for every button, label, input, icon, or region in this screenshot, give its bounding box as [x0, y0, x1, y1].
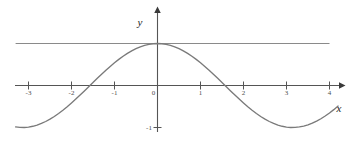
- x-tick-label-4: 4: [328, 89, 332, 97]
- y-axis-label: y: [137, 16, 143, 28]
- x-tick-label-0: 0: [152, 89, 156, 97]
- x-tick-label-3: 3: [285, 89, 289, 97]
- y-tick-label--1: -1: [146, 124, 152, 132]
- x-tick-label-1: 1: [199, 89, 203, 97]
- x-tick-label--2: -2: [69, 89, 75, 97]
- graph-figure: -3 -2 -1 0 1 2 3 4 -1 y x: [0, 0, 356, 146]
- x-tick-label--3: -3: [26, 89, 32, 97]
- x-tick-label-2: 2: [242, 89, 246, 97]
- coordinate-plot: -3 -2 -1 0 1 2 3 4 -1 y x: [0, 0, 356, 146]
- x-tick-label--1: -1: [112, 89, 118, 97]
